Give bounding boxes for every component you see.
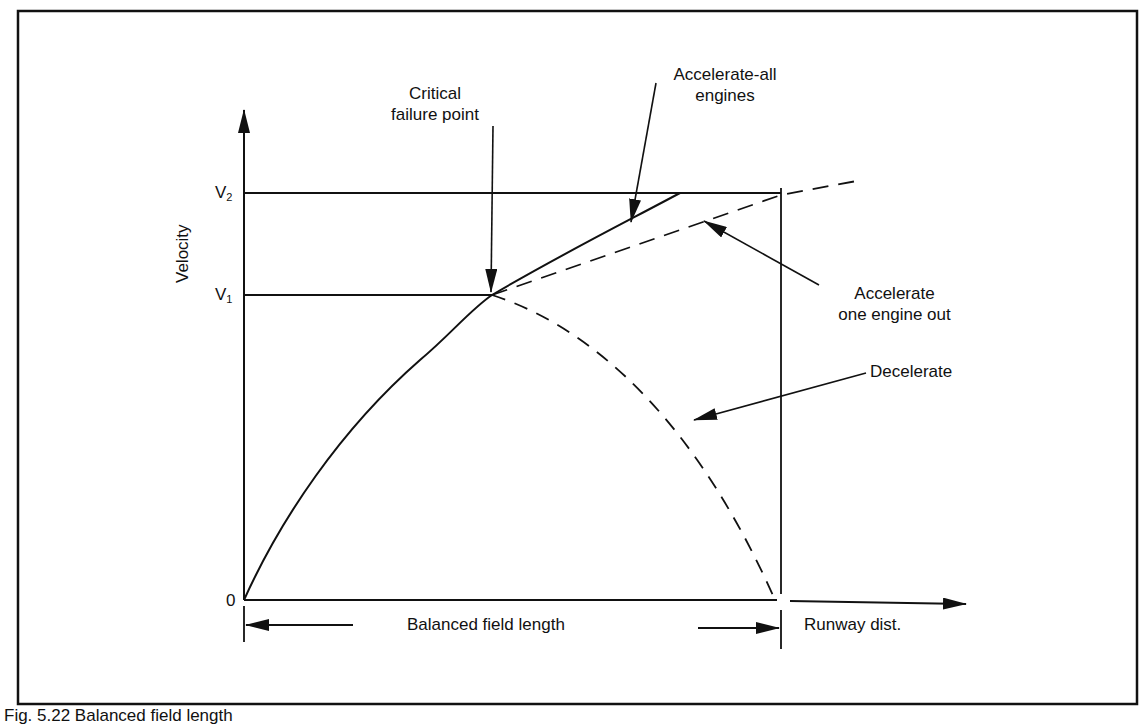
all-engines-arrow: [631, 83, 656, 222]
x-axis-arrow: [790, 601, 966, 604]
one-engine-out-label: Accelerate one engine out: [812, 283, 977, 325]
decelerate-label: Decelerate: [870, 361, 952, 382]
balanced-field-length-label: Balanced field length: [407, 614, 565, 635]
one-engine-out-arrow: [704, 221, 819, 285]
origin-label: 0: [226, 590, 235, 611]
accelerate-all-engines-label: Accelerate-all engines: [655, 64, 795, 106]
figure-caption: Fig. 5.22 Balanced field length: [4, 706, 233, 726]
v1-label: V1: [215, 284, 232, 310]
accelerate-all-curve: [244, 193, 680, 600]
critical-point-arrow: [491, 126, 493, 292]
decelerate-curve: [492, 295, 775, 600]
x-axis-label: Runway dist.: [804, 614, 901, 635]
critical-failure-label: Critical failure point: [365, 83, 505, 125]
y-axis-label: Velocity: [172, 224, 193, 283]
decelerate-arrow: [694, 373, 866, 420]
v2-label: V2: [215, 182, 232, 208]
